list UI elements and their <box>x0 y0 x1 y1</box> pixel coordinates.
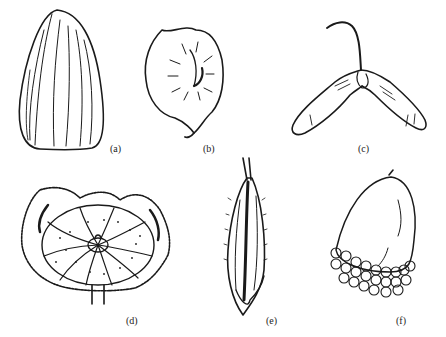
label-f: (f) <box>396 316 406 326</box>
seed-d-illustration <box>22 188 170 304</box>
seed-b-illustration <box>145 28 223 137</box>
label-a: (a) <box>110 144 121 154</box>
figure-canvas <box>0 0 446 337</box>
seed-c-illustration <box>292 22 426 134</box>
label-c: (c) <box>358 144 369 154</box>
seed-e-illustration <box>224 158 267 315</box>
label-b: (b) <box>203 144 215 154</box>
seed-f-illustration <box>331 170 415 297</box>
label-e: (e) <box>266 316 277 326</box>
seed-a-illustration <box>19 10 103 150</box>
label-d: (d) <box>126 316 138 326</box>
